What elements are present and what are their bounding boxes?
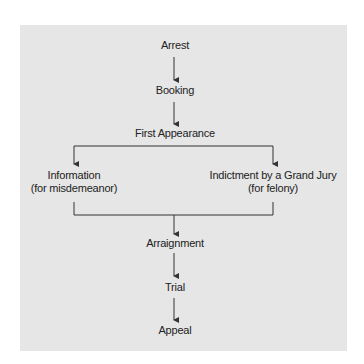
node-arrest: Arrest [161,39,189,52]
node-indictment: Indictment by a Grand Jury (for felony) [210,169,337,195]
node-information: Information (for misdemeanor) [31,169,117,195]
split-line-left [74,146,174,164]
node-arraignment: Arraignment [146,237,204,250]
node-indictment-subtitle: (for felony) [210,182,337,195]
merge-line [74,202,273,215]
node-trial: Trial [165,281,185,294]
node-information-subtitle: (for misdemeanor) [31,182,117,195]
node-information-title: Information [31,169,117,182]
node-indictment-title: Indictment by a Grand Jury [210,169,337,182]
node-booking: Booking [156,84,194,97]
node-appeal: Appeal [158,324,191,337]
node-first-appearance: First Appearance [135,127,215,140]
split-line-right [174,146,273,164]
